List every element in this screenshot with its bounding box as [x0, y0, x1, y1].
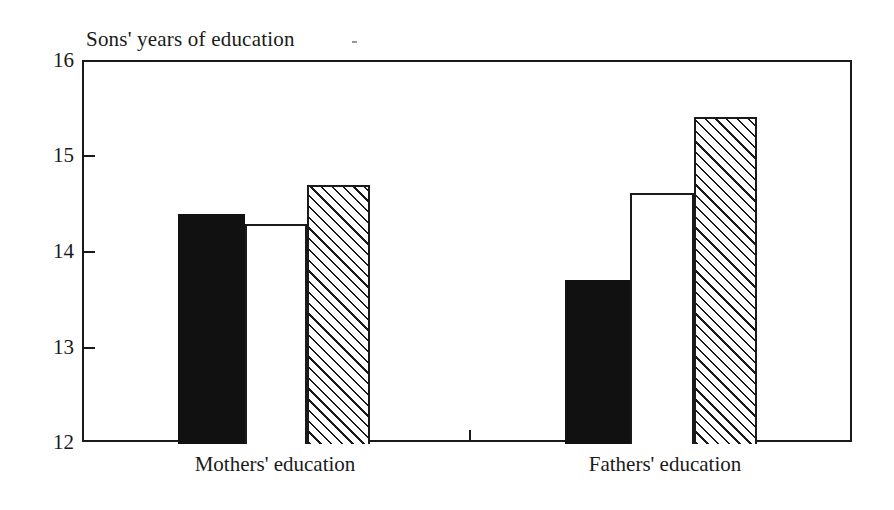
bar-mothers-open [245, 224, 307, 444]
y-tick-mark-13 [82, 347, 95, 349]
y-tick-mark-15 [82, 155, 95, 157]
y-tick-mark-14 [82, 251, 95, 253]
x-axis-group-separator-tick [469, 430, 471, 442]
bar-fathers-open [630, 193, 694, 444]
x-category-label-fathers: Fathers' education [500, 452, 830, 477]
y-tick-label-16: 16 [40, 50, 74, 71]
bar-fathers-hatched [694, 117, 757, 444]
y-tick-label-15: 15 [40, 145, 74, 166]
bar-mothers-hatched [307, 185, 370, 444]
bar-fathers-solid [565, 280, 630, 444]
bar-chart-figure: Sons' years of education 16 15 14 13 12 … [0, 0, 894, 510]
y-tick-label-13: 13 [40, 337, 74, 358]
scan-artifact-speck [352, 41, 357, 43]
bar-mothers-solid [178, 214, 245, 444]
y-tick-label-14: 14 [40, 241, 74, 262]
y-tick-label-12: 12 [40, 432, 74, 453]
plot-frame [82, 60, 852, 442]
x-category-label-mothers: Mothers' education [110, 452, 440, 477]
y-tick-label-group: 16 15 14 13 12 [34, 0, 74, 510]
y-axis-title: Sons' years of education [86, 27, 295, 52]
